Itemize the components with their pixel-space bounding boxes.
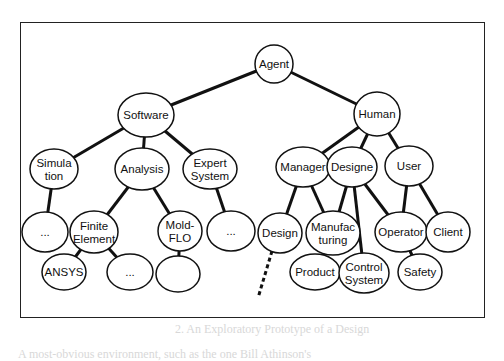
node-ellipse (156, 256, 200, 292)
node-finite-element: FiniteElement (70, 211, 118, 253)
dashed-edge-design (258, 251, 272, 298)
node-label: turing (319, 234, 348, 246)
node-control-system: ControlSystem (339, 253, 389, 293)
node-designer: Designe (327, 147, 377, 187)
node-sim-more: ... (22, 212, 68, 252)
node-agent: Agent (255, 45, 293, 83)
node-layer: AgentSoftwareHumanSimulationAnalysisExpe… (22, 45, 470, 293)
node-label: Human (358, 108, 395, 120)
node-label: Agent (259, 58, 290, 70)
node-operator: Operator (375, 212, 427, 252)
node-label: System (345, 274, 383, 286)
node-human: Human (354, 92, 400, 136)
node-manager: Manager (276, 147, 330, 187)
node-label: ANSYS (45, 266, 84, 278)
agent-hierarchy-tree: AgentSoftwareHumanSimulationAnalysisExpe… (0, 0, 504, 361)
node-design: Design (258, 213, 302, 253)
node-label: Software (123, 109, 168, 121)
node-simulation: Simulation (30, 149, 78, 189)
node-label: Manager (280, 161, 326, 173)
node-safety: Safety (398, 254, 442, 290)
node-label: Safety (404, 266, 437, 278)
node-expert-more: ... (207, 211, 255, 251)
node-label: User (397, 160, 421, 172)
node-label: Product (295, 266, 335, 278)
node-label: Design (262, 227, 298, 239)
node-manufacturing: Manufacturing (306, 211, 360, 255)
node-label: Mold- (166, 219, 195, 231)
node-fe-more: ... (107, 254, 153, 290)
node-label: Operator (378, 226, 424, 238)
node-user: User (385, 146, 433, 186)
node-label: Expert (193, 157, 227, 169)
node-client: Client (426, 212, 470, 252)
node-label: Finite (80, 220, 108, 232)
node-label: FLO (169, 232, 191, 244)
node-mold-child (156, 256, 200, 292)
node-mold-flo: Mold-FLO (158, 211, 202, 251)
node-analysis: Analysis (115, 148, 169, 190)
node-ansys: ANSYS (42, 254, 86, 290)
node-expert-system: ExpertSystem (183, 149, 237, 189)
node-label: ... (40, 226, 50, 238)
node-label: ... (226, 225, 236, 237)
node-label: Manufac (311, 221, 355, 233)
node-label: ... (125, 266, 135, 278)
node-label: tion (45, 170, 64, 182)
node-label: Analysis (121, 163, 164, 175)
node-product: Product (290, 254, 340, 290)
node-label: System (191, 170, 229, 182)
node-software: Software (118, 93, 174, 137)
node-label: Simula (36, 157, 72, 169)
node-label: Element (73, 233, 116, 245)
node-label: Designe (331, 161, 373, 173)
node-label: Client (433, 226, 463, 238)
node-label: Control (345, 261, 382, 273)
